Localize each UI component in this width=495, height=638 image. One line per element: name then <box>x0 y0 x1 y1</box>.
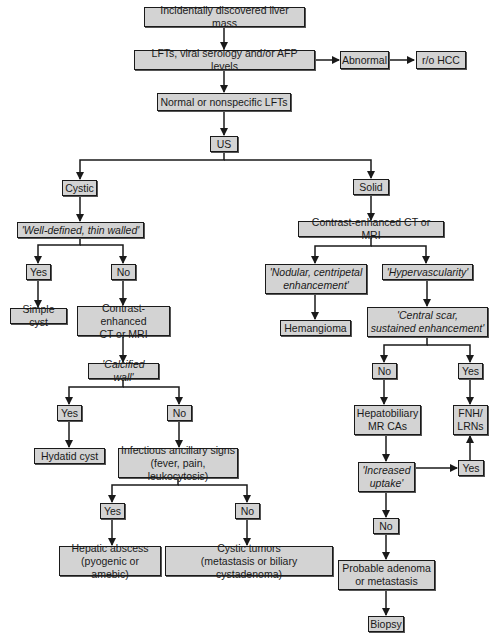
node-uptake-no: No <box>373 518 399 534</box>
node-normal-lfts: Normal or nonspecific LFTs <box>157 93 291 111</box>
node-biopsy: Biopsy <box>368 616 404 632</box>
node-calcified-wall: 'Calcified wall' <box>88 363 159 379</box>
node-calcified-no: No <box>167 405 192 421</box>
node-abnormal: Abnormal <box>340 51 389 69</box>
node-probable-adenoma: Probable adenoma or metastasis <box>338 560 435 590</box>
node-rule-out-hcc: r/o HCC <box>416 51 466 69</box>
node-hypervascularity: 'Hypervascularity' <box>382 264 473 280</box>
node-contrast-ct-mri-solid: Contrast-enhanced CT or MRI <box>298 221 444 237</box>
node-contrast-ct-mri-cystic: Contrast-enhanced CT or MRI <box>77 306 170 336</box>
node-hemangioma: Hemangioma <box>280 320 351 336</box>
node-cystic-tumors: Cystic tumors (metastasis or biliary cys… <box>165 546 333 576</box>
node-increased-uptake: 'Increased uptake' <box>358 462 415 492</box>
node-well-defined-thin-walled: 'Well-defined, thin walled' <box>17 222 144 238</box>
node-fnh-lrns: FNH/ LRNs <box>453 405 488 435</box>
node-uptake-yes: Yes <box>458 460 484 476</box>
node-infectious-yes: Yes <box>100 503 125 519</box>
node-well-defined-yes: Yes <box>26 264 51 280</box>
node-central-scar: 'Central scar, sustained enhancement' <box>367 307 488 337</box>
node-nodular-centripetal: 'Nodular, centripetal enhancement' <box>265 264 367 294</box>
node-infectious-no: No <box>235 503 260 519</box>
node-simple-cyst: Simple cyst <box>10 308 67 324</box>
node-hydatid-cyst: Hydatid cyst <box>34 448 105 464</box>
node-infectious-signs: Infectious ancillary signs (fever, pain,… <box>118 448 238 478</box>
node-calcified-yes: Yes <box>57 405 82 421</box>
node-lab-tests: LFTs, viral serology and/or AFP levels <box>134 50 315 70</box>
node-incidental-liver-mass: Incidentally discovered liver mass <box>144 7 305 27</box>
node-hepatobiliary-mr: Hepatobiliary MR CAs <box>354 405 421 435</box>
node-cystic: Cystic <box>62 180 97 196</box>
node-us: US <box>210 136 238 152</box>
node-central-scar-no: No <box>372 363 397 379</box>
node-hepatic-abscess: Hepatic abscess (pyogenic or amebic) <box>59 546 161 576</box>
node-well-defined-no: No <box>111 264 136 280</box>
node-solid: Solid <box>353 179 389 195</box>
node-central-scar-yes: Yes <box>458 363 483 379</box>
